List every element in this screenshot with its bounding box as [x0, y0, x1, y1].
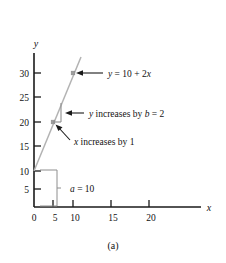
intercept-label-eq: = 10 [75, 184, 95, 194]
rise-arrow [65, 110, 84, 116]
x-tick-label-15: 15 [108, 213, 118, 223]
run-label-rest: increases by 1 [78, 137, 134, 147]
figure-caption: (a) [107, 240, 118, 252]
intercept-label: a = 10 [70, 184, 95, 194]
rise-label-eq: = 2 [149, 109, 164, 119]
equation-label: y = 10 + 2x [107, 69, 152, 79]
x-axis-ticks [53, 200, 149, 207]
equation-arrow [76, 70, 103, 76]
x-axis-label: x [206, 202, 212, 213]
x-tick-label-0: 0 [32, 213, 37, 223]
run-label: x increases by 1 [73, 137, 135, 147]
y-tick-label-25: 25 [20, 93, 30, 103]
y-tick-label-10: 10 [20, 167, 30, 177]
equation-label-x: x [146, 69, 152, 79]
y-tick-label-15: 15 [20, 142, 30, 152]
step-triangle [53, 103, 61, 122]
y-axis-ticks [34, 73, 41, 189]
y-tick-label-30: 30 [20, 69, 30, 79]
intercept-bracket [40, 170, 61, 206]
x-tick-label-20: 20 [146, 213, 156, 223]
rise-label-rest: increases by [93, 109, 144, 119]
equation-label-rest: = 10 + 2 [112, 69, 147, 79]
x-tick-label-5: 5 [53, 213, 58, 223]
plot-svg: 30 25 20 15 10 5 0 5 10 15 20 y x [0, 0, 226, 263]
y-tick-label-5: 5 [24, 185, 29, 195]
equation-marker [71, 71, 75, 75]
run-arrow [56, 125, 71, 141]
y-tick-label-20: 20 [20, 118, 30, 128]
figure-container: 30 25 20 15 10 5 0 5 10 15 20 y x [0, 0, 226, 263]
rise-label: y increases by b = 2 [88, 109, 165, 119]
x-tick-label-10: 10 [70, 213, 80, 223]
y-axis-label: y [33, 38, 39, 49]
